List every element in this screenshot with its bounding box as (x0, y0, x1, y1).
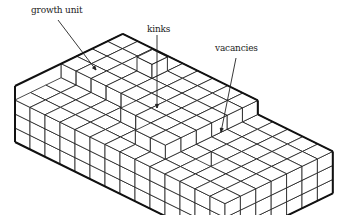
crystal-lattice-diagram (0, 0, 344, 215)
cube-lattice (15, 34, 333, 215)
label-vacancies: vacancies (215, 43, 258, 53)
label-kinks: kinks (147, 24, 170, 34)
label-growth-unit: growth unit (31, 5, 82, 15)
